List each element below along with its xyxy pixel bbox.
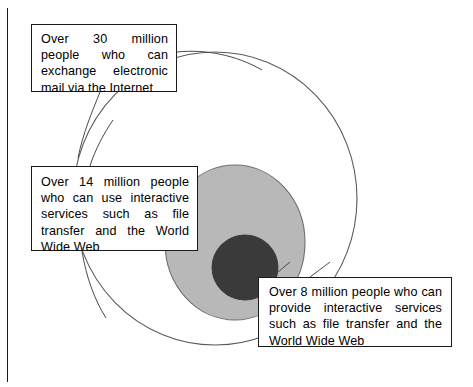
page-border-left-rule <box>7 8 8 382</box>
callout-text-8-million: Over 8 million people who can provide in… <box>269 284 442 349</box>
callout-text-14-million: Over 14 million people who can use inter… <box>41 174 189 255</box>
callout-text-30-million: Over 30 million people who can exchange … <box>41 31 168 96</box>
callout-box-30-million[interactable]: Over 30 million people who can exchange … <box>31 24 177 92</box>
diagram-page: Over 30 million people who can exchange … <box>0 0 473 387</box>
callout-box-8-million[interactable]: Over 8 million people who can provide in… <box>258 277 452 347</box>
callout-box-14-million[interactable]: Over 14 million people who can use inter… <box>31 166 198 251</box>
